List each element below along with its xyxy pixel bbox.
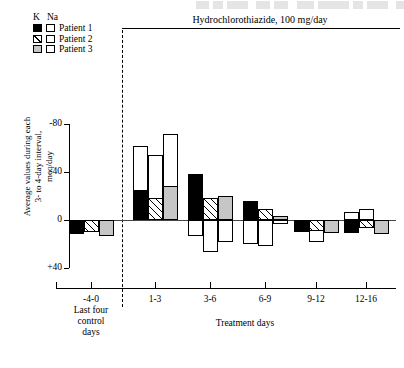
legend-swatch-na-patient-2 [46,35,55,43]
control-treatment-divider [122,30,123,307]
bar-k-patient-2-12-16 [359,220,374,228]
legend: K Na Patient 1 Patient 2 Patient 3 [33,12,93,55]
bar-k-patient-3--4-0 [99,220,114,236]
legend-swatch-na-patient-3 [46,45,55,53]
legend-row-patient-2: Patient 2 [33,34,93,45]
bar-na-patient-1-6-9 [243,220,258,244]
legend-swatch-k-patient-3 [33,45,42,53]
figure-root: K Na Patient 1 Patient 2 Patient 3 Hydro… [0,0,404,368]
x-axis [56,288,396,289]
control-caption-line-2: control [59,316,123,327]
x-axis-left-cap [56,282,57,289]
legend-label-patient-1: Patient 1 [59,23,93,33]
y-axis [69,124,70,268]
x-label--4-0: -4-0Last fourcontroldays [59,294,123,338]
legend-swatch-na-patient-1 [46,24,55,32]
legend-row-patient-1: Patient 1 [33,23,93,34]
x-tick-1-3 [155,282,156,289]
x-label-text--4-0: -4-0 [59,294,123,305]
legend-header: K Na [33,12,93,22]
y-tick--80 [64,124,69,125]
legend-label-patient-3: Patient 3 [59,44,93,54]
treatment-title: Hydrochlorothiazide, 100 mg/day [120,14,400,25]
x-tick-12-16 [366,282,367,289]
x-axis-title: Treatment days [150,318,340,328]
y-tick-label--40: -40 [22,167,62,177]
bar-k-patient-1-3-6 [188,174,203,220]
legend-swatch-k-patient-1 [33,24,42,32]
bar-k-patient-1-1-3 [133,190,148,220]
bar-k-patient-2--4-0 [84,220,99,232]
bar-k-patient-2-1-3 [148,198,163,220]
bar-k-patient-2-6-9 [258,209,273,220]
legend-col-na: Na [47,12,63,22]
bar-na-patient-3-3-6 [218,220,233,242]
x-label-12-16: 12-16 [334,294,398,305]
legend-col-k: K [33,12,47,22]
bar-na-patient-2-12-16 [359,209,374,220]
y-tick-label-+40: +40 [22,263,62,273]
bar-k-patient-3-9-12 [324,220,339,233]
bar-k-patient-3-12-16 [374,220,389,234]
bar-na-patient-3-6-9 [273,220,288,224]
bar-k-patient-3-3-6 [218,196,233,220]
bar-k-patient-1-9-12 [294,220,309,232]
x-tick-6-9 [265,282,266,289]
x-tick-3-6 [210,282,211,289]
legend-row-patient-3: Patient 3 [33,44,93,55]
treatment-rule [122,28,400,29]
bar-k-patient-1--4-0 [69,220,84,234]
y-tick-label--80: -80 [22,119,62,129]
legend-swatch-k-patient-2 [33,35,42,43]
bar-na-patient-1-3-6 [188,220,203,236]
bar-na-patient-2-3-6 [203,220,218,252]
control-caption-line-3: days [59,327,123,338]
bar-k-patient-2-3-6 [203,198,218,220]
bar-k-patient-2-9-12 [309,220,324,231]
legend-label-patient-2: Patient 2 [59,34,93,44]
y-tick-label-0: 0 [22,215,62,225]
y-tick-+40 [64,268,69,269]
bar-na-patient-1-12-16 [344,212,359,220]
x-tick--4-0 [91,282,92,289]
control-caption-line-1: Last four [59,305,123,316]
cropped-header-text [196,1,404,9]
bar-k-patient-3-6-9 [273,216,288,220]
bar-na-patient-2-6-9 [258,220,273,246]
bar-k-patient-1-6-9 [243,201,258,220]
y-tick--40 [64,172,69,173]
bar-k-patient-1-12-16 [344,220,359,233]
x-tick-9-12 [316,282,317,289]
x-label-text-12-16: 12-16 [334,294,398,305]
bar-k-patient-3-1-3 [163,186,178,220]
